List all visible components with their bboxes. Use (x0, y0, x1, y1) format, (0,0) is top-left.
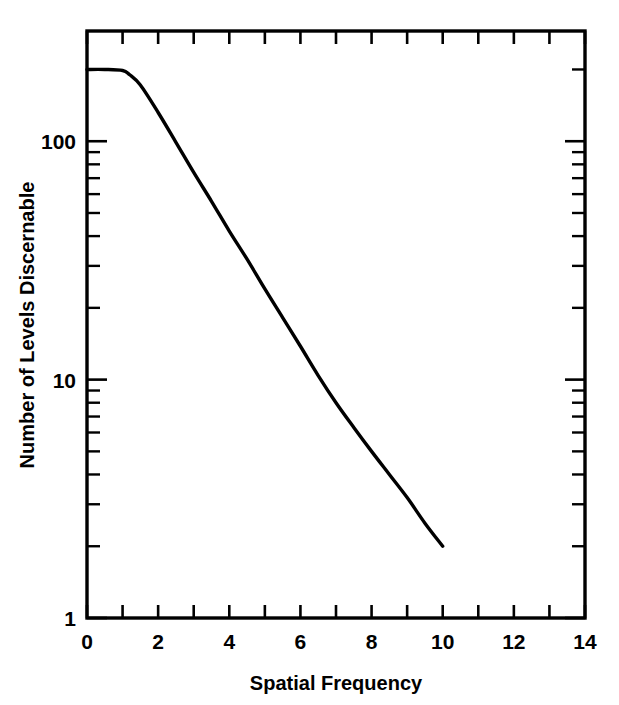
x-tick-label: 12 (502, 630, 525, 653)
y-axis-ticks-right (565, 69, 585, 618)
y-axis-title: Number of Levels Discernable (16, 182, 38, 469)
y-axis-ticks (87, 69, 107, 618)
x-tick-label: 6 (295, 630, 307, 653)
x-tick-label: 10 (431, 630, 454, 653)
x-tick-label: 2 (152, 630, 164, 653)
x-tick-label: 0 (81, 630, 93, 653)
x-tick-label: 14 (573, 630, 597, 653)
x-axis-tick-labels: 02468101214 (81, 630, 597, 653)
x-tick-label: 4 (223, 630, 235, 653)
y-tick-label: 1 (64, 607, 76, 630)
x-axis-ticks-top (87, 31, 585, 44)
x-tick-label: 8 (366, 630, 378, 653)
x-axis-title: Spatial Frequency (250, 672, 423, 694)
y-tick-label: 100 (41, 130, 76, 153)
chart-canvas: 02468101214 110100 Spatial Frequency Num… (0, 0, 619, 705)
data-series-line (87, 69, 443, 546)
y-axis-tick-labels: 110100 (41, 130, 76, 630)
chart-figure: 02468101214 110100 Spatial Frequency Num… (0, 0, 619, 705)
y-tick-label: 10 (53, 369, 76, 392)
x-axis-ticks (87, 605, 585, 618)
